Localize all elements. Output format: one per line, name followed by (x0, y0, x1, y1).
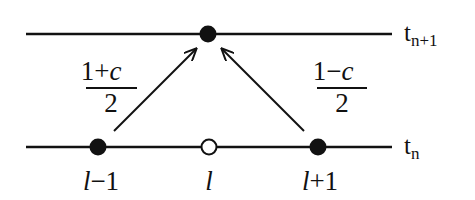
svg-text:1−c: 1−c (313, 56, 354, 86)
node-top-filled (200, 26, 217, 43)
weight-right-fraction: 1−c 2 (313, 56, 367, 118)
weight-left-num-a: 1+ (81, 56, 110, 86)
weight-left-num-c: c (109, 56, 121, 86)
index-label-center: l (205, 166, 213, 196)
arrow-right-to-top (222, 49, 304, 131)
weight-right-den: 2 (335, 88, 349, 118)
node-left-filled (90, 139, 107, 156)
index-label-right: l+1 (302, 166, 338, 196)
weight-right-num-a: 1− (313, 56, 342, 86)
stencil-diagram: 1+c 2 1−c 2 tn+1 tn l−1 l l+1 (0, 0, 475, 200)
time-label-bottom-sub: n (411, 144, 420, 163)
weight-right-num-c: c (341, 56, 353, 86)
node-right-filled (310, 139, 327, 156)
time-label-top-sub: n+1 (411, 31, 438, 50)
weight-left-den: 2 (104, 88, 118, 118)
time-label-top: tn+1 (404, 19, 438, 50)
index-label-left: l−1 (83, 166, 119, 196)
node-center-open (202, 140, 217, 155)
weight-left-fraction: 1+c 2 (81, 56, 137, 118)
svg-text:1+c: 1+c (81, 56, 122, 86)
arrow-left-to-top (114, 49, 196, 131)
time-label-bottom: tn (404, 132, 420, 163)
